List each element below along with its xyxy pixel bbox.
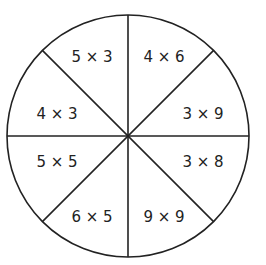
segment-label: 4 × 3 bbox=[36, 105, 77, 123]
segment-label: 5 × 5 bbox=[36, 153, 77, 171]
multiplication-wheel: 5 × 3 4 × 6 3 × 9 3 × 8 9 × 9 6 × 5 5 × … bbox=[0, 0, 266, 265]
segment-label: 5 × 3 bbox=[71, 48, 112, 66]
segment-label: 9 × 9 bbox=[143, 208, 184, 226]
segment-label: 6 × 5 bbox=[71, 208, 112, 226]
wheel-outline bbox=[7, 15, 249, 257]
segment-label: 3 × 8 bbox=[182, 153, 223, 171]
segment-label: 4 × 6 bbox=[143, 48, 184, 66]
segment-label: 3 × 9 bbox=[182, 105, 223, 123]
